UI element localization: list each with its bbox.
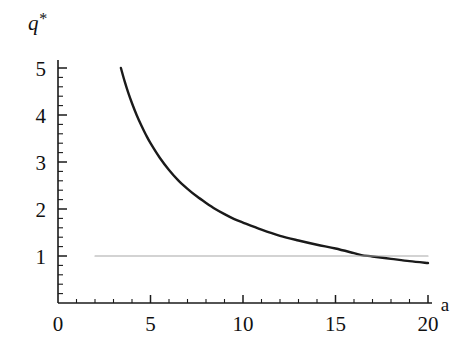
y-axis-tick-label: 5 [36,57,47,81]
x-axis-tick-label: 0 [53,312,64,336]
x-axis-tick-label: 20 [418,312,439,336]
x-axis-tick-label: 15 [325,312,346,336]
y-axis-tick-label: 3 [36,151,47,175]
x-axis-title: a [441,294,450,315]
chart-figure: 0510152012345q*a [0,0,475,352]
y-axis-tick-label: 2 [36,198,47,222]
x-axis-tick-label: 10 [233,312,254,336]
y-axis-title: q* [28,10,47,35]
x-axis-tick-label: 5 [145,312,156,336]
plot-canvas: 0510152012345q*a [0,0,475,352]
y-axis-tick-label: 1 [36,245,47,269]
data-curve-qstar [121,68,428,263]
y-axis-tick-label: 4 [36,104,47,128]
